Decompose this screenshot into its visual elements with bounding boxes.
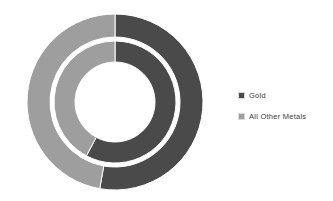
legend-swatch-all-other-metals [238, 113, 245, 120]
legend-item-all-other-metals[interactable]: All Other Metals [238, 111, 330, 122]
legend-label-all-other-metals: All Other Metals [249, 112, 306, 122]
legend-item-gold[interactable]: Gold [238, 90, 330, 101]
legend-swatch-gold [238, 92, 245, 99]
chart-plot-area [14, 8, 219, 196]
doughnut-chart: Gold All Other Metals [0, 0, 333, 201]
doughnut-rings-svg [14, 8, 219, 196]
slice-outer-gold[interactable] [100, 14, 203, 190]
legend-label-gold: Gold [249, 91, 266, 101]
chart-legend: Gold All Other Metals [238, 90, 330, 132]
